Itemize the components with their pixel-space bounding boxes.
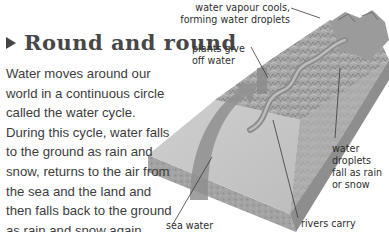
label-rivers: rivers carry	[301, 218, 356, 230]
label-plants: plants give off water	[192, 43, 245, 67]
label-line: forming water droplets	[170, 14, 290, 26]
label-sea-water: sea water	[166, 220, 213, 232]
triangle-right-icon	[6, 37, 16, 49]
label-water-droplets: water droplets fall as rain or snow	[332, 143, 382, 191]
section-body-text: Water moves around our world in a contin…	[6, 64, 176, 232]
label-line: off water	[192, 55, 245, 67]
label-line: plants give	[192, 43, 245, 55]
label-line: water vapour cools,	[194, 2, 290, 14]
label-line: fall as rain	[332, 167, 382, 179]
label-water-vapour: water vapour cools, forming water drople…	[194, 2, 290, 26]
water-cycle-page: Round and round Water moves around our w…	[0, 0, 389, 232]
label-line: or snow	[332, 179, 382, 191]
transpiration-arrow-icon	[257, 68, 267, 94]
label-line: droplets	[332, 155, 382, 167]
label-line: water	[332, 143, 382, 155]
